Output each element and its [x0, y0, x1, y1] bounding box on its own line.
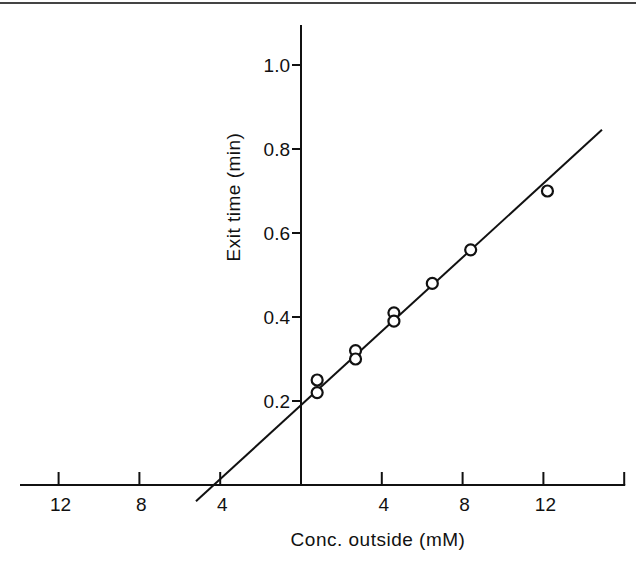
x-tick-label: 4: [379, 494, 390, 515]
data-point-circle: [465, 244, 476, 255]
y-tick-label: 0.6: [264, 223, 290, 244]
chart: 128448120.20.40.60.81.0 Conc. outside (m…: [0, 0, 636, 572]
data-point-circle: [312, 375, 323, 386]
x-tick-label: 8: [136, 494, 147, 515]
axes: 128448120.20.40.60.81.0: [20, 25, 625, 515]
data-point-circle: [427, 278, 438, 289]
data-point-circle: [312, 387, 323, 398]
data-point-circle: [542, 186, 553, 197]
x-tick-label: 4: [217, 494, 228, 515]
x-axis-title: Conc. outside (mM): [291, 529, 466, 550]
y-tick-label: 0.2: [264, 391, 290, 412]
y-tick-label: 1.0: [264, 55, 290, 76]
y-tick-label: 0.8: [264, 139, 290, 160]
data-point-circle: [388, 316, 399, 327]
y-tick-label: 0.4: [264, 307, 291, 328]
x-tick-label: 8: [459, 494, 470, 515]
data-points: [312, 186, 553, 399]
x-tick-label: 12: [535, 494, 556, 515]
x-tick-label: 12: [50, 494, 71, 515]
y-axis-title: Exit time (min): [223, 133, 244, 262]
data-point-circle: [350, 354, 361, 365]
axis-labels: Conc. outside (mM) Exit time (min): [223, 133, 465, 550]
